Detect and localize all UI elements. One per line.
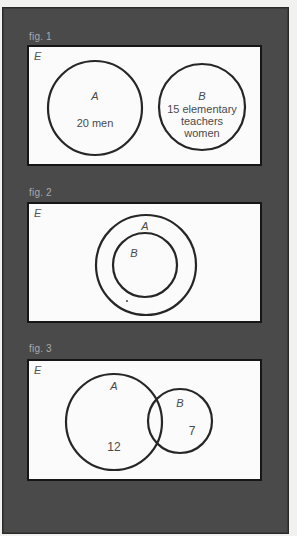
fig-3-set-a-content: 12 [107, 442, 120, 453]
fig-1-set-b-line-1: 15 elementary [167, 104, 237, 115]
fig-1-universe-box: E A 20 men B 15 elementary teachers wome… [27, 45, 262, 166]
fig-3-venn-svg [29, 361, 264, 483]
fig-2-circle-b [113, 233, 177, 297]
fig-2-set-b-label: B [130, 248, 137, 259]
fig-1-set-a-label: A [91, 91, 98, 102]
fig-1-circle-a [48, 61, 142, 155]
fig-2-set-a-label: A [141, 221, 148, 232]
fig-3-universe-box: E A 12 B 7 [27, 359, 262, 481]
fig-3-label: fig. 3 [29, 343, 52, 354]
fig-1-label: fig. 1 [29, 31, 52, 42]
fig-3-set-b-content: 7 [189, 426, 196, 437]
fig-1-set-b-line-3: women [184, 128, 219, 139]
fig-1-set-a-content: 20 men [77, 118, 114, 129]
fig-1-set-b-label: B [198, 91, 205, 102]
fig-3-set-b-label: B [176, 398, 183, 409]
fig-2-dot [126, 300, 128, 302]
fig-2-universe-box: E A B [27, 202, 262, 323]
fig-3-set-a-label: A [110, 381, 117, 392]
fig-2-label: fig. 2 [29, 187, 52, 198]
fig-1-set-b-line-2: teachers [181, 116, 223, 127]
